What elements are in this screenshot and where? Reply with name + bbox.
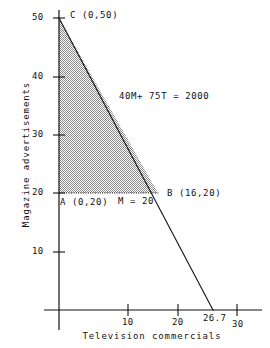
y-tick-label-30: 30 (32, 130, 44, 139)
y-tick-label-40: 40 (32, 72, 44, 81)
linear-programming-chart: 50 40 30 20 10 10 20 26.7 30 C (0,50) A … (0, 0, 270, 348)
x-tick-label-20: 20 (172, 318, 184, 327)
x-tick-label-30: 30 (232, 320, 244, 329)
y-tick-label-10: 10 (32, 247, 44, 256)
constraint-label-budget: 40M+ 75T = 2000 (119, 92, 209, 101)
y-tick-label-20: 20 (32, 188, 44, 197)
plot-canvas (0, 0, 270, 348)
vertex-label-c: C (0,50) (70, 11, 118, 20)
constraint-label-magazine: M = 20 (118, 197, 154, 206)
vertex-label-a: A (0,20) (60, 198, 108, 207)
x-tick-label-26-7: 26.7 (203, 314, 226, 323)
y-axis-title: Magazine advertisements (22, 75, 31, 235)
x-axis-title: Television commercials (62, 332, 242, 341)
feasible-region-shading (59, 18, 158, 193)
vertex-label-b: B (16,20) (167, 189, 221, 198)
y-tick-label-50: 50 (32, 13, 44, 22)
x-tick-label-10: 10 (122, 318, 134, 327)
